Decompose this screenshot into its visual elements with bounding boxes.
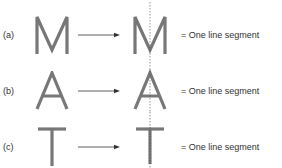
description: = One line segment	[181, 30, 259, 40]
letter-a-original	[34, 71, 70, 111]
row-label: (b)	[3, 86, 14, 96]
arrow-icon	[78, 144, 120, 150]
row-b: (b) = One line segment	[0, 56, 282, 112]
row-label: (c)	[3, 142, 14, 152]
description: = One line segment	[181, 86, 259, 96]
arrow-icon	[78, 32, 120, 38]
row-label: (a)	[3, 30, 14, 40]
row-c: (c) = One line segment	[0, 112, 282, 168]
arrow-icon	[78, 88, 120, 94]
letter-m-with-symmetry-line	[132, 2, 168, 56]
letter-a-with-symmetry-line	[132, 56, 168, 112]
letter-m-original	[34, 14, 70, 56]
letter-t-with-symmetry-line	[132, 112, 168, 168]
description: = One line segment	[181, 142, 259, 152]
row-a: (a) = One line segment	[0, 0, 282, 56]
letter-t-original	[34, 126, 70, 168]
